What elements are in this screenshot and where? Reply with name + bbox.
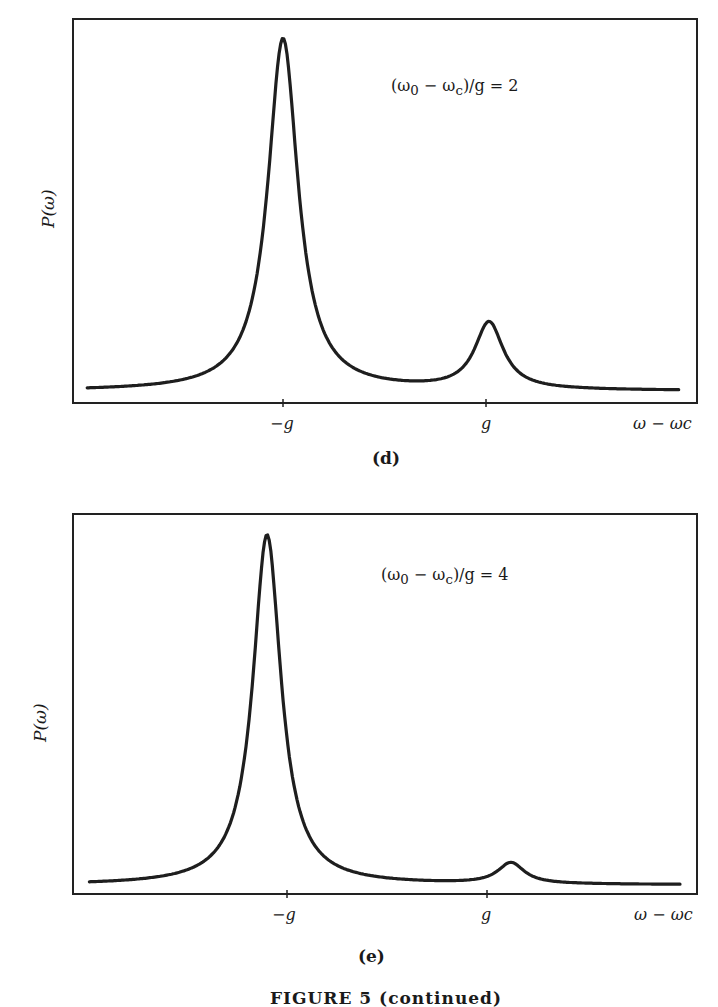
annot-lhs: (ω (381, 565, 400, 584)
chart-panel-d: P(ω) (ω0 − ωc)/g = 2 −g g ω − ωc (d) (0, 0, 718, 480)
x-tick-label-g-d: g (481, 414, 491, 433)
x-tick-label-minus-g-e: −g (272, 905, 296, 924)
x-tick-label-g-e: g (481, 905, 491, 924)
y-axis-label-d: P(ω) (38, 189, 58, 228)
figure-caption: FIGURE 5 (continued) (270, 988, 502, 1007)
annot-sub0: 0 (410, 83, 418, 98)
spectrum-curve-e (89, 535, 680, 884)
annot-sub0: 0 (400, 572, 408, 587)
annot-subc: c (455, 83, 462, 98)
panel-label-e: (e) (358, 946, 385, 966)
plot-area-d (0, 0, 718, 480)
spectrum-curve-d (87, 39, 679, 390)
panel-label-d: (d) (372, 448, 400, 468)
x-tick-label-minus-g-d: −g (270, 414, 294, 433)
annot-mid: − ω (419, 76, 456, 95)
chart-panel-e: P(ω) (ω0 − ωc)/g = 4 −g g ω − ωc (e) (0, 480, 718, 1007)
annot-mid: − ω (409, 565, 446, 584)
annot-rhs: )/g = 4 (453, 565, 509, 584)
annot-rhs: )/g = 2 (463, 76, 519, 95)
plot-frame-d (73, 19, 697, 403)
x-axis-label-e: ω − ωc (634, 905, 693, 924)
annot-lhs: (ω (391, 76, 410, 95)
plot-area-e (0, 480, 718, 920)
annot-subc: c (445, 572, 452, 587)
annotation-e: (ω0 − ωc)/g = 4 (381, 565, 509, 587)
y-axis-label-e: P(ω) (30, 703, 50, 742)
annotation-d: (ω0 − ωc)/g = 2 (391, 76, 519, 98)
x-axis-label-d: ω − ωc (633, 414, 692, 433)
